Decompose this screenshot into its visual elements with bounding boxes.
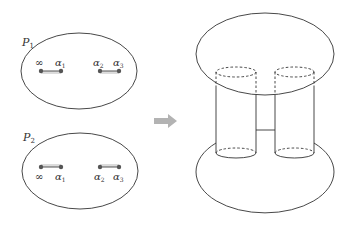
branch-cut-inf-alpha1: ∞ α1 — [35, 57, 66, 74]
right-arrow-icon — [154, 114, 177, 128]
branch-point-infinity — [39, 69, 43, 73]
label-alpha1: α1 — [55, 57, 66, 69]
label-infinity: ∞ — [35, 171, 43, 182]
label-alpha2: α2 — [93, 57, 104, 69]
label-alpha3: α3 — [113, 57, 124, 69]
left-tube — [216, 67, 256, 158]
sheet-p2-label: P2 — [22, 131, 35, 145]
label-alpha1: α1 — [55, 171, 66, 183]
branch-cut-inf-alpha1-p2: ∞ α1 — [35, 164, 66, 183]
label-alpha3: α3 — [113, 171, 124, 183]
branch-point-alpha2 — [98, 69, 102, 73]
bottom-sheet-ellipse — [196, 143, 334, 213]
label-infinity: ∞ — [35, 57, 43, 68]
glued-surface — [196, 13, 334, 213]
sheet-p1-label: P1 — [21, 36, 34, 50]
right-tube — [275, 67, 314, 158]
sheet-p1: P1 ∞ α1 α2 α3 — [21, 33, 137, 109]
label-alpha2: α2 — [94, 171, 105, 183]
riemann-surface-diagram: P1 ∞ α1 α2 α3 P2 ∞ α1 — [0, 0, 348, 225]
sheet-p2: P2 ∞ α1 α2 α3 — [22, 131, 138, 209]
branch-cut-alpha2-alpha3: α2 α3 — [93, 57, 124, 74]
branch-point-alpha2 — [98, 165, 102, 169]
branch-cut-alpha2-alpha3-p2: α2 α3 — [94, 164, 124, 183]
branch-point-alpha1 — [59, 69, 63, 73]
branch-point-infinity — [39, 165, 43, 169]
branch-point-alpha3 — [117, 165, 121, 169]
branch-point-alpha1 — [59, 165, 63, 169]
branch-point-alpha3 — [117, 69, 121, 73]
top-sheet-ellipse — [196, 13, 334, 95]
